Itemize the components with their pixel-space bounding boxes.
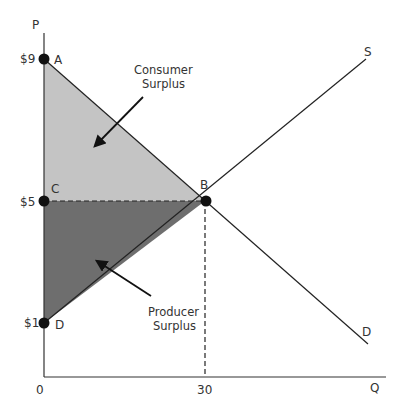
producer-surplus-label-line2: Surplus <box>153 319 196 333</box>
x-axis-label: Q <box>370 381 379 395</box>
origin-label: 0 <box>36 383 44 397</box>
point-a-marker <box>39 54 50 65</box>
price-tick-5: $5 <box>20 195 35 209</box>
quantity-tick-30: 30 <box>197 383 212 397</box>
point-b-label: B <box>200 178 208 192</box>
producer-surplus-label-line1: Producer <box>148 305 199 319</box>
producer-surplus-arrow <box>97 261 151 296</box>
consumer-surplus-label-line1: Consumer <box>134 63 193 77</box>
consumer-surplus-label-line2: Surplus <box>142 77 185 91</box>
demand-label: D <box>362 325 371 339</box>
point-d-marker <box>39 318 50 329</box>
point-c-marker <box>39 196 50 207</box>
y-axis-label: P <box>32 18 39 32</box>
point-b-marker <box>201 196 212 207</box>
price-tick-9: $9 <box>20 52 35 66</box>
point-d-label: D <box>55 318 64 332</box>
price-tick-1: $1 <box>24 316 39 330</box>
point-a-label: A <box>54 53 63 67</box>
point-c-label: C <box>51 182 59 196</box>
supply-label: S <box>364 45 372 59</box>
surplus-diagram: P Q 0 $9 $5 $1 30 A B C D S D Consumer S… <box>0 0 402 419</box>
